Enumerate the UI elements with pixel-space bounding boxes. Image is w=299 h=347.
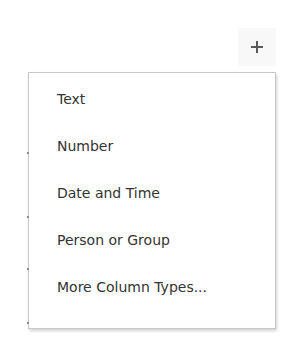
plus-icon: [251, 41, 263, 53]
edge-marker: [27, 152, 29, 154]
menu-item-text[interactable]: Text: [29, 87, 275, 134]
menu-item-more-column-types[interactable]: More Column Types...: [29, 275, 275, 322]
underlying-column-edge: [28, 72, 29, 329]
edge-marker: [27, 268, 29, 270]
edge-marker: [27, 216, 29, 218]
stage: Text Number Date and Time Person or Grou…: [0, 0, 299, 347]
edge-marker: [27, 322, 29, 324]
column-type-menu: Text Number Date and Time Person or Grou…: [28, 72, 276, 329]
menu-item-number[interactable]: Number: [29, 134, 275, 181]
menu-item-person-or-group[interactable]: Person or Group: [29, 228, 275, 275]
add-column-button[interactable]: [238, 28, 276, 66]
menu-item-date-and-time[interactable]: Date and Time: [29, 181, 275, 228]
